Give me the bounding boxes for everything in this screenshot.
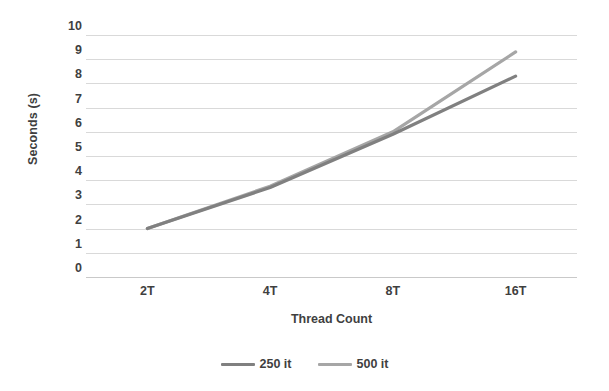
y-axis-tick-labels: 109876543210 xyxy=(42,26,82,286)
x-axis-title: Thread Count xyxy=(86,312,577,326)
y-axis-tick-label: 9 xyxy=(42,44,82,57)
y-axis-tick-label: 1 xyxy=(42,238,82,251)
y-axis-tick-label: 8 xyxy=(42,68,82,81)
legend-entry: 500 it xyxy=(318,358,389,371)
series-lines xyxy=(86,35,577,277)
legend-color-swatch xyxy=(318,363,352,366)
x-axis-tick-label: 16T xyxy=(476,285,556,298)
legend-entry: 250 it xyxy=(221,358,292,371)
series-line xyxy=(147,76,515,228)
series-line xyxy=(147,52,515,229)
x-axis-tick-label: 4T xyxy=(230,285,310,298)
x-axis-tick-labels: 2T4T8T16T xyxy=(86,285,577,305)
y-axis-tick-label: 5 xyxy=(42,141,82,154)
x-axis-tick-label: 8T xyxy=(353,285,433,298)
y-axis-tick-label: 0 xyxy=(42,262,82,275)
legend-label: 250 it xyxy=(260,358,292,371)
x-axis-tick-label: 2T xyxy=(107,285,187,298)
y-axis-tick-label: 10 xyxy=(42,20,82,33)
line-chart: Seconds (s) 109876543210 2T4T8T16T Threa… xyxy=(0,0,609,391)
y-axis-tick-label: 7 xyxy=(42,93,82,106)
gridline xyxy=(86,277,577,278)
y-axis-tick-label: 3 xyxy=(42,189,82,202)
plot-area xyxy=(86,35,577,277)
y-axis-tick-label: 4 xyxy=(42,165,82,178)
legend-label: 500 it xyxy=(357,358,389,371)
y-axis-tick-label: 6 xyxy=(42,117,82,130)
chart-legend: 250 it500 it xyxy=(0,358,609,371)
y-axis-tick-label: 2 xyxy=(42,214,82,227)
y-axis-title: Seconds (s) xyxy=(26,49,40,209)
legend-color-swatch xyxy=(221,363,255,366)
